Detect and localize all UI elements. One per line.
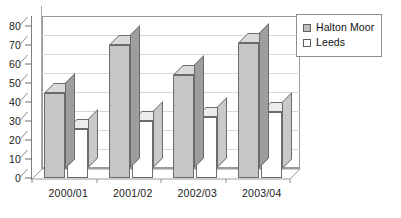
x-axis-tick-mark [290,179,291,183]
bar-side-face [88,109,98,168]
y-axis-tick-label: 70 [9,40,21,51]
y-axis: 01020304050607080 [0,10,32,185]
y-axis-tick-label: 30 [9,116,21,127]
y-axis-tick-elbow [19,17,37,26]
x-axis-tick-mark [96,179,97,183]
bar-front-face [238,43,259,178]
bar-2003-04-halton-moor [238,43,259,178]
y-axis-tick-elbow [19,131,37,140]
x-axis-tick-label: 2002/03 [178,187,217,199]
x-axis-tick-label: 2000/01 [49,187,88,199]
bar-2000-01-halton-moor [44,93,65,179]
y-axis-tick-elbow [19,150,37,159]
legend-item: Leeds [303,35,374,50]
bar-2002-03-halton-moor [173,75,194,178]
y-axis-tick-elbow [19,36,37,45]
y-axis-tick-label: 50 [9,78,21,89]
y-axis-tick-elbow [19,93,37,102]
bar-chart: 01020304050607080 2000/012001/022002/032… [0,0,401,218]
x-axis-tick-mark [161,179,162,183]
bar-front-face [44,93,65,179]
gridline [42,16,300,17]
y-axis-tick-label: 10 [9,154,21,165]
legend-item: Halton Moor [303,20,374,35]
bar-front-face [109,45,130,178]
y-axis-tick-label: 80 [9,21,21,32]
y-axis-tick-label: 20 [9,135,21,146]
legend-swatch-halton-moor [303,24,311,32]
chart-legend: Halton Moor Leeds [296,14,382,57]
x-axis-tick-label: 2001/02 [113,187,152,199]
bar-side-face [194,55,204,168]
y-axis-tick-elbow [19,55,37,64]
y-axis-line-back [41,6,42,170]
x-axis-tick-mark [225,179,226,183]
legend-label-leeds: Leeds [316,37,345,48]
legend-swatch-leeds [303,39,311,47]
y-axis-tick-elbow [19,74,37,83]
bar-side-face [217,97,227,168]
bar-side-face [259,23,269,168]
y-axis-tick-label: 60 [9,59,21,70]
bar-2001-02-halton-moor [109,45,130,178]
x-axis-tick-mark [32,179,33,183]
legend-label-halton-moor: Halton Moor [316,22,374,33]
x-axis: 2000/012001/022002/032003/04 [32,183,300,203]
bar-side-face [130,25,140,168]
bar-side-face [282,92,292,169]
bar-side-face [65,73,75,169]
bar-front-face [173,75,194,178]
y-axis-tick-label: 40 [9,97,21,108]
bar-side-face [153,101,163,168]
y-axis-tick-label: 0 [15,173,21,184]
x-axis-tick-label: 2003/04 [242,187,281,199]
y-axis-tick-elbow [19,112,37,121]
